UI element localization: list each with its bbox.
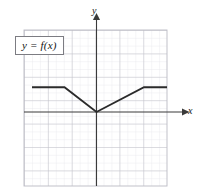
graph-figure: y = f(x) y x	[0, 0, 201, 193]
x-axis-label: x	[188, 106, 192, 116]
function-label-box: y = f(x)	[15, 36, 64, 55]
y-axis-label: y	[92, 6, 96, 16]
coordinate-plane	[0, 0, 201, 193]
